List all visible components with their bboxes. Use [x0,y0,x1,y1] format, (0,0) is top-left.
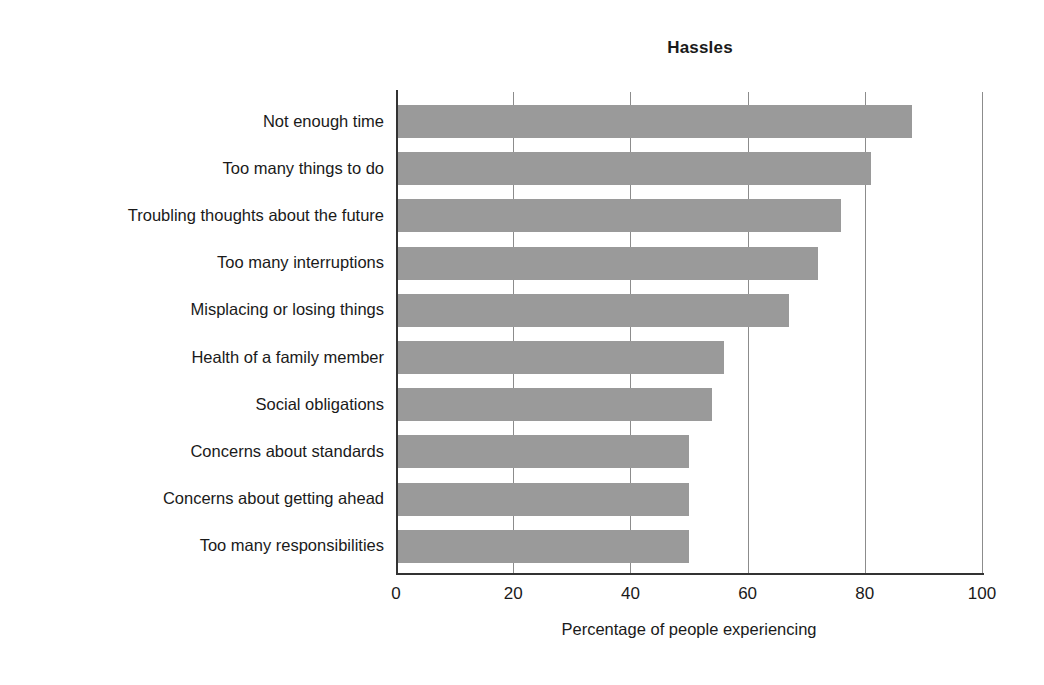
x-axis-line [396,573,984,575]
x-tick-label: 0 [366,584,426,604]
gridline-100 [982,92,983,573]
category-label: Too many responsibilities [0,537,384,554]
y-axis-line [396,90,398,575]
category-label: Social obligations [0,396,384,413]
bar [396,294,789,327]
x-tick-label: 20 [483,584,543,604]
bar [396,105,912,138]
category-label: Too many things to do [0,160,384,177]
x-tick-label: 80 [835,584,895,604]
x-tick-label: 100 [952,584,1012,604]
bar [396,530,689,563]
chart-title-text: Hassles [667,38,733,57]
category-label: Troubling thoughts about the future [0,207,384,224]
bar [396,483,689,516]
bar [396,247,818,280]
category-label: Health of a family member [0,349,384,366]
plot-area [396,92,982,573]
x-tick-label: 40 [600,584,660,604]
category-label: Concerns about getting ahead [0,490,384,507]
bar [396,435,689,468]
x-axis-title: Percentage of people experiencing [396,620,982,639]
chart-title: Hassles [0,38,1044,58]
x-tick-label: 60 [718,584,778,604]
category-label: Concerns about standards [0,443,384,460]
bar [396,388,712,421]
category-label: Misplacing or losing things [0,301,384,318]
category-label: Too many interruptions [0,254,384,271]
bar [396,199,841,232]
bar [396,341,724,374]
category-label: Not enough time [0,113,384,130]
bar [396,152,871,185]
chart-figure: Hassles Not enough timeToo many things t… [0,0,1044,685]
